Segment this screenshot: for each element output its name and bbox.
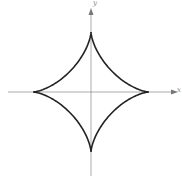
x-axis-label: x: [177, 87, 181, 94]
y-axis-label: y: [93, 0, 97, 7]
y-axis-arrow-icon: [89, 8, 94, 15]
astroid-plot: [0, 0, 182, 176]
